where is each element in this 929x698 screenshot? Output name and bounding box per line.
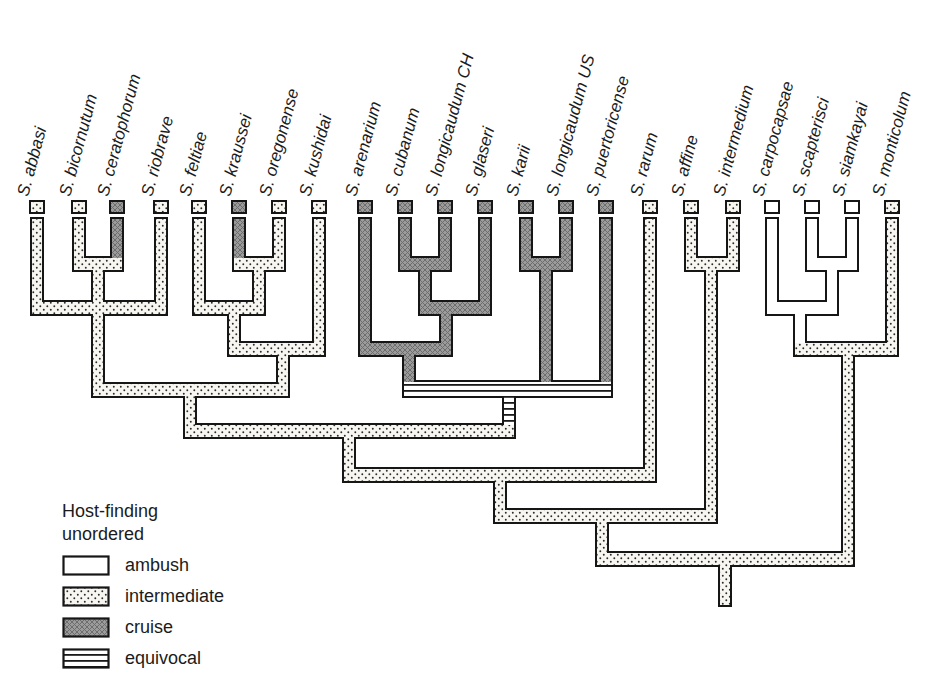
ambush-label: ambush xyxy=(125,555,189,576)
legend-title-line1: Host-finding xyxy=(62,500,224,523)
legend-item-ambush: ambush xyxy=(62,555,224,576)
legend-item-cruise: cruise xyxy=(62,617,224,638)
equivocal-label: equivocal xyxy=(125,648,201,669)
equivocal-swatch xyxy=(62,648,110,669)
legend-item-equivocal: equivocal xyxy=(62,648,224,669)
cruise-label: cruise xyxy=(125,617,173,638)
cladogram-figure: S. abbasiS. bicornutumS. ceratophorumS. … xyxy=(0,0,929,698)
legend-title: Host-finding unordered xyxy=(62,500,224,546)
intermediate-label: intermediate xyxy=(125,586,224,607)
legend: Host-finding unordered ambush intermedia… xyxy=(62,500,224,679)
legend-item-intermediate: intermediate xyxy=(62,586,224,607)
ambush-swatch xyxy=(62,555,110,576)
cruise-swatch xyxy=(62,617,110,638)
intermediate-swatch xyxy=(62,586,110,607)
legend-title-line2: unordered xyxy=(62,523,224,546)
